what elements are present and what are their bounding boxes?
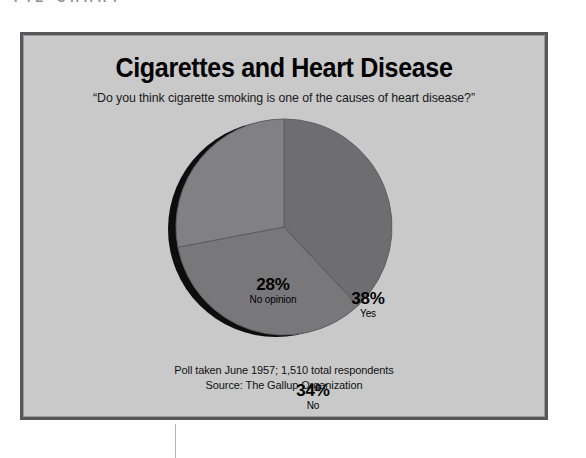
pie-slice-value-yes: 38% (323, 290, 413, 308)
pie-slice-name-yes: Yes (323, 309, 413, 320)
pie-slice-label-yes: 38% Yes (323, 290, 413, 319)
chart-subtitle: “Do you think cigarette smoking is one o… (36, 90, 532, 105)
chart-panel: Cigarettes and Heart Disease “Do you thi… (20, 32, 548, 420)
pie-slice-name-no-opinion: No opinion (218, 295, 328, 306)
pie-slice-label-no-opinion: 28% No opinion (218, 276, 328, 305)
page-rule-mark (175, 424, 176, 458)
chart-footnote-source: Source: The Gallup Organization (23, 378, 545, 393)
page-running-header-text: PIE CHART (14, 0, 124, 5)
chart-footnote-line-1: Poll taken June 1957; 1,510 total respon… (23, 363, 545, 378)
pie-slice-name-no: No (268, 401, 358, 412)
chart-footnote: Poll taken June 1957; 1,510 total respon… (23, 363, 545, 393)
page-running-header: PIE CHART (0, 0, 586, 7)
pie-slice-value-no-opinion: 28% (218, 276, 328, 294)
pie-slice-no-opinion (176, 119, 284, 247)
pie-chart: 28% No opinion 38% Yes 34% No (23, 110, 545, 350)
chart-title: Cigarettes and Heart Disease (41, 53, 526, 84)
